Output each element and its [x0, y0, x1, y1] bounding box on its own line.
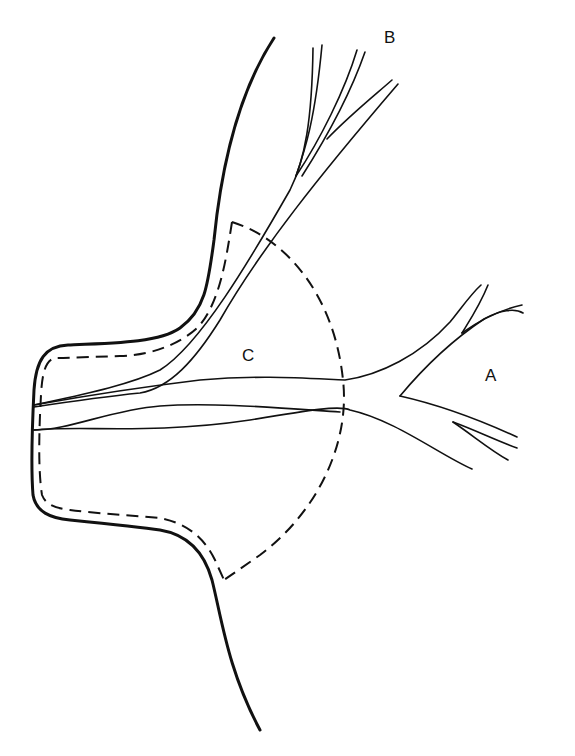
- label-b: B: [384, 28, 395, 47]
- dashed-region-c-arc: [224, 222, 344, 580]
- nerve-a-fork-upper: [400, 310, 523, 396]
- nerve-b-branch-3: [302, 52, 365, 176]
- diagram-canvas: B C A: [0, 0, 575, 756]
- nerve-a-fork-lower: [400, 396, 517, 437]
- nerve-b-branch-2: [296, 50, 357, 176]
- nerve-b-lower-line: [34, 84, 398, 407]
- label-c: C: [242, 346, 254, 365]
- label-a: A: [485, 366, 497, 385]
- outer-contour-line: [32, 38, 274, 730]
- nerve-b-upper-line: [34, 48, 313, 405]
